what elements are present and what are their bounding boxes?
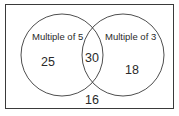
count-multiple-of-5-only: 25	[41, 55, 55, 69]
set-label-multiple-of-3: Multiple of 3	[105, 31, 156, 42]
venn-diagram: Multiple of 5 Multiple of 3 25 30 18 16	[0, 0, 179, 116]
set-label-multiple-of-5: Multiple of 5	[32, 31, 83, 42]
count-multiple-of-3-only: 18	[125, 63, 139, 77]
count-intersection: 30	[85, 51, 99, 65]
count-outside: 16	[85, 93, 99, 107]
